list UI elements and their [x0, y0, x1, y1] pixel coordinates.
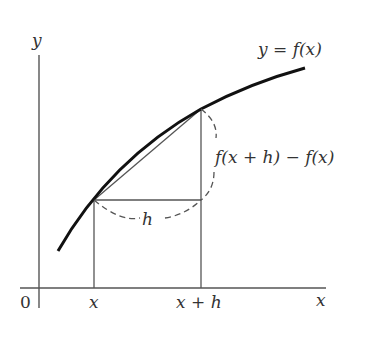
- x-plus-h-tick-label: x + h: [176, 292, 222, 312]
- rise-label: f(x + h) − f(x): [213, 147, 334, 167]
- x-axis-label: x: [316, 290, 326, 310]
- rise-brace-dashed: [201, 109, 216, 200]
- run-label: h: [142, 209, 153, 229]
- secant-line: [94, 109, 201, 200]
- y-axis-label: y: [31, 30, 42, 50]
- difference-quotient-diagram: y x 0 x x + h h f(x + h) − f(x) y = f(x): [0, 0, 378, 339]
- curve-label: y = f(x): [257, 39, 322, 59]
- diagram-svg: y x 0 x x + h h f(x + h) − f(x) y = f(x): [0, 0, 378, 339]
- origin-label: 0: [20, 292, 31, 312]
- x-tick-label: x: [89, 292, 99, 312]
